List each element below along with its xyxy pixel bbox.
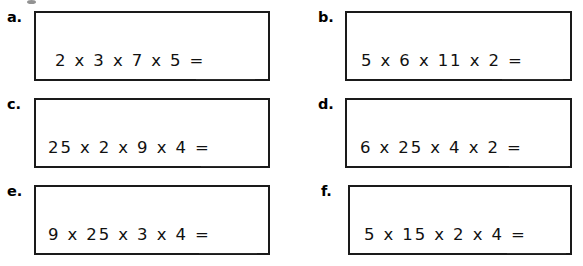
answer-blank-b[interactable] bbox=[502, 79, 563, 80]
problem-label-d: d. bbox=[318, 97, 334, 112]
problem-box-a: 2 x 3 x 7 x 5 = bbox=[34, 11, 270, 81]
problem-box-e: 9 x 25 x 3 x 4 = bbox=[34, 185, 270, 255]
expression-c: 25 x 2 x 9 x 4 = bbox=[48, 140, 211, 157]
answer-blank-c[interactable] bbox=[201, 166, 260, 167]
problem-label-c: c. bbox=[7, 97, 21, 112]
problem-label-f: f. bbox=[321, 184, 332, 199]
problem-box-f: 5 x 15 x 2 x 4 = bbox=[348, 185, 572, 255]
answer-blank-d[interactable] bbox=[509, 166, 568, 167]
problem-label-b: b. bbox=[318, 10, 334, 25]
answer-blank-f[interactable] bbox=[507, 253, 566, 254]
expression-d: 6 x 25 x 4 x 2 = bbox=[360, 140, 523, 157]
problem-box-b: 5 x 6 x 11 x 2 = bbox=[345, 11, 572, 81]
answer-blank-e[interactable] bbox=[199, 253, 257, 254]
expression-b: 5 x 6 x 11 x 2 = bbox=[361, 53, 524, 70]
page-edge-artifact bbox=[27, 0, 36, 4]
worksheet-page: a. 2 x 3 x 7 x 5 = b. 5 x 6 x 11 x 2 = c… bbox=[0, 0, 583, 266]
problem-box-d: 6 x 25 x 4 x 2 = bbox=[345, 98, 572, 168]
expression-f: 5 x 15 x 2 x 4 = bbox=[364, 227, 527, 244]
expression-e: 9 x 25 x 3 x 4 = bbox=[48, 227, 211, 244]
answer-blank-a[interactable] bbox=[196, 79, 255, 80]
expression-a: 2 x 3 x 7 x 5 = bbox=[55, 53, 205, 70]
problem-box-c: 25 x 2 x 9 x 4 = bbox=[34, 98, 270, 168]
problem-label-a: a. bbox=[7, 10, 22, 25]
problem-label-e: e. bbox=[7, 184, 22, 199]
